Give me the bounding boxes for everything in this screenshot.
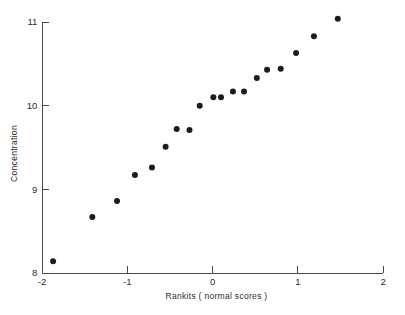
- data-point: [89, 214, 95, 220]
- axis-titles: Rankits ( normal scores )Concentration: [9, 125, 267, 301]
- data-points: [50, 16, 341, 265]
- axes: [42, 22, 383, 273]
- data-point: [163, 144, 169, 150]
- data-point: [50, 258, 56, 264]
- y-tick-label-0: 8: [32, 267, 37, 278]
- scatter-plot: 891011-2-1012 Rankits ( normal scores )C…: [0, 0, 405, 315]
- x-tick-label-2: 0: [210, 276, 215, 287]
- y-axis-title: Concentration: [9, 125, 19, 182]
- x-tick-label-4: 2: [380, 276, 385, 287]
- y-tick-label-2: 10: [27, 100, 37, 111]
- tick-labels: 891011-2-1012: [27, 16, 386, 287]
- data-point: [218, 94, 224, 100]
- data-point: [264, 67, 270, 73]
- data-point: [197, 103, 203, 109]
- data-point: [254, 75, 260, 81]
- data-point: [174, 126, 180, 132]
- data-point: [278, 66, 284, 72]
- data-point: [186, 127, 192, 133]
- chart-page: 891011-2-1012 Rankits ( normal scores )C…: [0, 0, 405, 315]
- data-point: [132, 172, 138, 178]
- data-point: [311, 33, 317, 39]
- y-tick-label-1: 9: [32, 184, 37, 195]
- tick-marks: [42, 22, 383, 273]
- data-point: [335, 16, 341, 22]
- data-point: [241, 88, 247, 94]
- x-tick-label-0: -2: [38, 276, 46, 287]
- data-point: [293, 50, 299, 56]
- x-axis-title: Rankits ( normal scores ): [166, 291, 268, 301]
- data-point: [149, 165, 155, 171]
- y-tick-label-3: 11: [28, 16, 37, 27]
- x-tick-label-1: -1: [123, 276, 131, 287]
- data-point: [114, 198, 120, 204]
- x-tick-label-3: 1: [295, 276, 300, 287]
- axis-spine: [42, 22, 383, 273]
- data-point: [230, 88, 236, 94]
- data-point: [210, 94, 216, 100]
